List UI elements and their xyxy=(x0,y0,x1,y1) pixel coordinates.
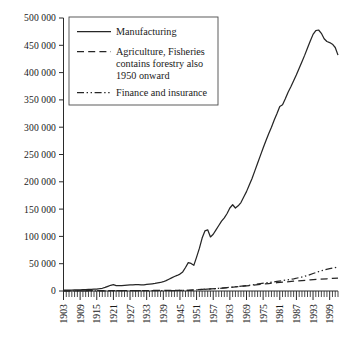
y-tick-label: 250 000 xyxy=(24,149,56,160)
y-tick-label: 150 000 xyxy=(24,204,56,215)
y-axis: 050 000100 000150 000200 000250 000300 0… xyxy=(24,12,63,296)
y-tick-label: 50 000 xyxy=(29,258,56,269)
x-tick-label: 1933 xyxy=(141,304,152,324)
legend-label: Finance and insurance xyxy=(116,87,208,98)
legend-label: contains forestry also xyxy=(116,58,203,69)
x-tick-label: 1915 xyxy=(91,304,102,324)
series-line-agriculture-fisheries xyxy=(64,278,339,291)
legend-label: Manufacturing xyxy=(116,26,177,37)
y-tick-label: 400 000 xyxy=(24,67,56,78)
line-chart: 050 000100 000150 000200 000250 000300 0… xyxy=(0,0,353,344)
x-tick-label: 1909 xyxy=(75,304,86,324)
x-tick-label: 1963 xyxy=(224,304,235,324)
y-tick-label: 300 000 xyxy=(24,122,56,133)
x-tick-label: 1981 xyxy=(274,304,285,324)
x-axis: 1903190919151921192719331939194519511957… xyxy=(58,291,338,324)
x-tick-label: 1957 xyxy=(208,304,219,324)
y-tick-label: 0 xyxy=(51,285,56,296)
y-tick-label: 100 000 xyxy=(24,231,56,242)
y-tick-label: 450 000 xyxy=(24,40,56,51)
y-tick-label: 500 000 xyxy=(24,12,56,23)
y-tick-label: 350 000 xyxy=(24,94,56,105)
y-tick-label: 200 000 xyxy=(24,176,56,187)
x-tick-label: 1987 xyxy=(291,304,302,324)
x-tick-label: 1993 xyxy=(308,304,319,324)
chart-legend: ManufacturingAgriculture, Fisheriesconta… xyxy=(69,17,218,105)
x-tick-label: 1969 xyxy=(241,304,252,324)
legend-label: Agriculture, Fisheries xyxy=(116,46,205,57)
x-tick-label: 1975 xyxy=(258,304,269,324)
x-tick-label: 1939 xyxy=(158,304,169,324)
x-tick-label: 1903 xyxy=(58,304,69,324)
x-tick-label: 1999 xyxy=(324,304,335,324)
x-tick-label: 1927 xyxy=(125,304,136,324)
legend-label: 1950 onward xyxy=(116,70,169,81)
x-tick-label: 1921 xyxy=(108,304,119,324)
x-tick-label: 1951 xyxy=(191,304,202,324)
chart-container: 050 000100 000150 000200 000250 000300 0… xyxy=(0,0,353,344)
x-tick-label: 1945 xyxy=(175,304,186,324)
